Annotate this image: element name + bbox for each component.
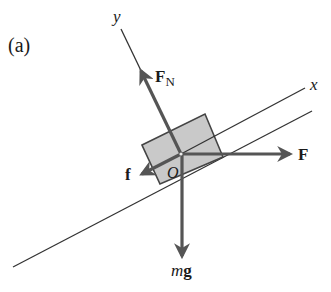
y-axis-label: y	[111, 7, 121, 26]
normal-force-label: FN	[155, 67, 175, 89]
x-axis-label: x	[309, 75, 318, 94]
panel-label: (a)	[8, 34, 30, 57]
free-body-diagram: (a) y x O FN F f mg	[0, 0, 331, 292]
origin-label: O	[167, 164, 179, 181]
origin-point	[179, 152, 182, 155]
weight-force-label: mg	[171, 261, 192, 280]
applied-force-label: F	[298, 145, 308, 164]
friction-force-label: f	[125, 165, 131, 184]
